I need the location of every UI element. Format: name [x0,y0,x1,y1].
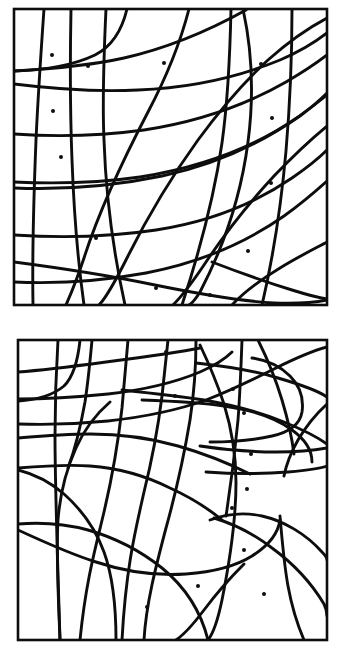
generator-site-dot [262,592,266,596]
figure-root [0,0,351,661]
generator-site-dot [242,548,246,552]
generator-site-dot [231,387,235,391]
generator-site-dot [173,394,177,398]
panel-bottom-canvas [0,0,351,661]
generator-site-dot [249,452,253,456]
generator-site-dot [230,506,234,510]
generator-site-dot [164,350,168,354]
generator-site-dot [242,411,246,415]
generator-site-dot [196,584,200,588]
generator-site-dot [145,605,149,609]
generator-site-dot [245,487,249,491]
panel-bottom [0,0,351,661]
